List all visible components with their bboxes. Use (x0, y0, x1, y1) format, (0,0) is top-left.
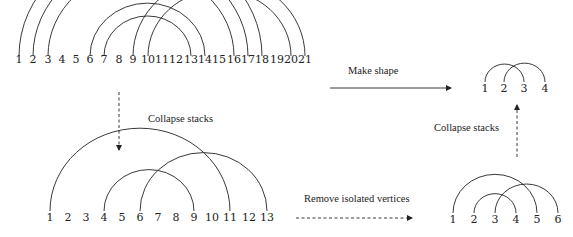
vertex-label: 5 (119, 212, 126, 223)
collapse-stacks-up-label: Collapse stacks (434, 123, 499, 134)
vertex-label: 3 (521, 83, 528, 94)
vertex-label: 5 (73, 54, 80, 65)
arc-edge (504, 63, 545, 82)
vertex-label: 2 (471, 214, 478, 225)
arcs-layer (19, 0, 558, 213)
vertex-label: 1 (450, 214, 457, 225)
vertex-label: 4 (513, 214, 520, 225)
arc-edge (104, 170, 194, 211)
vertex-label: 9 (130, 54, 137, 65)
vertex-label: 11 (223, 212, 237, 223)
arc-edge (140, 153, 267, 211)
vertex-label: 7 (101, 54, 108, 65)
vertex-label: 11 (155, 54, 169, 65)
vertex-label: 17 (241, 54, 255, 65)
arc-edge (133, 0, 305, 56)
arc-edge (19, 0, 262, 56)
arc-edge (148, 0, 291, 56)
collapse-stacks-down-label: Collapse stacks (148, 114, 213, 125)
vertex-label: 2 (501, 83, 508, 94)
arc-edge (104, 16, 191, 56)
vertex-label: 1 (47, 212, 54, 223)
vertex-label: 5 (534, 214, 541, 225)
vertex-label: 2 (65, 212, 72, 223)
vertex-label: 15 (212, 54, 226, 65)
vertex-label: 12 (242, 212, 256, 223)
remove-isolated-label: Remove isolated vertices (304, 194, 410, 205)
arc-edge (90, 3, 205, 56)
arc-edge (495, 184, 558, 213)
vertex-label: 13 (260, 212, 274, 223)
vertex-label: 12 (169, 54, 183, 65)
arc-edge (48, 0, 234, 56)
vertex-label: 4 (542, 83, 549, 94)
arc-diagram-canvas (0, 0, 573, 237)
vertex-label: 8 (173, 212, 180, 223)
vertex-label: 4 (59, 54, 66, 65)
vertex-label: 8 (116, 54, 123, 65)
vertex-label: 1 (16, 54, 23, 65)
vertex-label: 6 (555, 214, 562, 225)
vertex-label: 6 (137, 212, 144, 223)
vertex-label: 10 (205, 212, 219, 223)
vertex-label: 18 (255, 54, 269, 65)
vertex-label: 3 (492, 214, 499, 225)
vertex-label: 20 (284, 54, 298, 65)
arc-edge (50, 128, 230, 211)
vertex-label: 14 (198, 54, 212, 65)
vertex-label: 3 (45, 54, 52, 65)
arc-edge (33, 0, 248, 56)
vertex-label: 7 (155, 212, 162, 223)
vertex-label: 10 (141, 54, 155, 65)
vertex-label: 2 (30, 54, 37, 65)
vertex-label: 13 (184, 54, 198, 65)
vertex-label: 1 (482, 83, 489, 94)
vertex-label: 6 (87, 54, 94, 65)
vertex-label: 21 (298, 54, 312, 65)
vertex-label: 3 (83, 212, 90, 223)
vertex-label: 16 (227, 54, 241, 65)
vertex-label: 19 (270, 54, 284, 65)
vertex-label: 9 (191, 212, 198, 223)
make-shape-label: Make shape (348, 66, 398, 77)
vertex-label: 4 (101, 212, 108, 223)
